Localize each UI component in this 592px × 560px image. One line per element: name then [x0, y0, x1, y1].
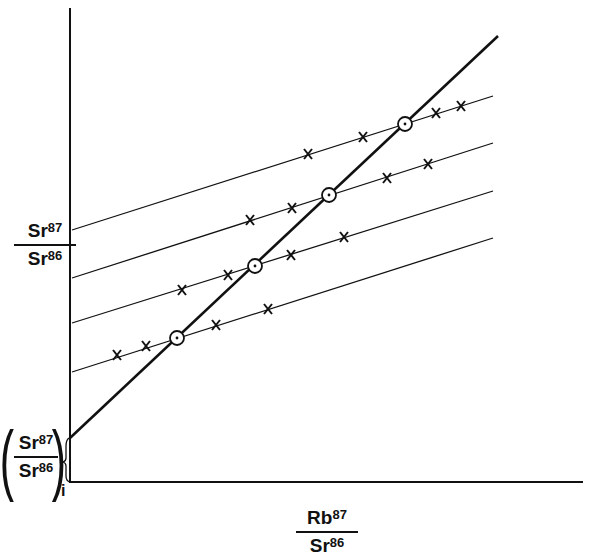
x-marker-icon [424, 159, 432, 169]
intercept-subscript: i [61, 482, 65, 500]
marker-dot [404, 123, 407, 126]
x-marker-icon [142, 341, 150, 351]
fraction-bar [296, 531, 358, 533]
axes [69, 8, 583, 482]
mineral-points [113, 101, 465, 360]
marker-dot [328, 194, 331, 197]
circle-dot-marker-icon [170, 331, 184, 345]
circle-dot-marker-icon [248, 259, 262, 273]
x-axis-label: Rb87 Sr86 [296, 507, 358, 557]
left-paren: ( [0, 420, 14, 498]
isochron [70, 36, 498, 438]
y-axis-label: Sr87 Sr86 [14, 220, 76, 270]
x-marker-icon [457, 101, 465, 111]
x-marker-icon [113, 350, 121, 360]
marker-dot [254, 265, 257, 268]
mineral-lines [72, 96, 493, 372]
isochron-line [70, 36, 498, 438]
fraction-bar [14, 244, 76, 246]
isochron-plot [0, 0, 592, 560]
circle-dot-marker-icon [398, 117, 412, 131]
circle-dot-marker-icon [322, 188, 336, 202]
marker-dot [176, 337, 179, 340]
